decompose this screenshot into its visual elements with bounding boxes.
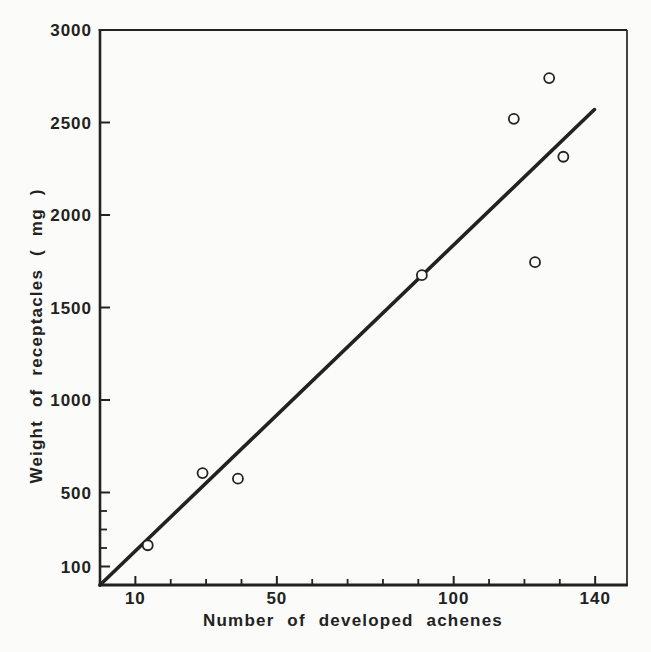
tick-label: 140 [579,589,610,608]
data-point [558,152,568,162]
tick-label: 2500 [50,114,92,133]
tick-label: 10 [125,589,146,608]
data-point [544,73,554,83]
tick-label: 1000 [50,391,92,410]
y-axis-title: Weight of receptacles ( mg ) [27,189,47,484]
data-point [143,540,153,550]
data-point [198,468,208,478]
tick-label: 100 [61,558,92,577]
data-point [233,474,243,484]
data-point [509,114,519,124]
data-point [417,270,427,280]
regression-line [100,110,594,585]
tick-label: 50 [266,589,287,608]
tick-label: 1500 [50,299,92,318]
data-point [530,257,540,267]
tick-label: 3000 [50,21,92,40]
tick-label: 100 [438,589,469,608]
scatter-plot: 100500100015002000250030001050100140 [0,0,651,652]
x-axis-title: Number of developed achenes [203,611,503,631]
tick-label: 2000 [50,206,92,225]
tick-label: 500 [61,484,92,503]
figure: 100500100015002000250030001050100140 Wei… [0,0,651,652]
